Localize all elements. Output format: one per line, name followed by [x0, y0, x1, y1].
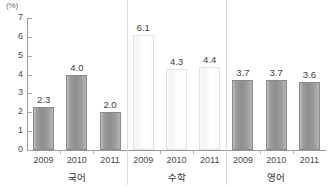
x-axis-line	[27, 150, 326, 151]
y-axis-tick-mark	[28, 150, 32, 151]
x-axis-category-label: 2009	[133, 155, 153, 165]
x-axis-category-label: 2009	[233, 155, 253, 165]
bar-value-label: 2.3	[37, 94, 50, 105]
bar: 3.7	[232, 80, 253, 150]
x-axis-category-label: 2009	[34, 155, 54, 165]
bar: 2.0	[100, 112, 121, 150]
y-axis-tick-label: 7	[18, 12, 23, 23]
y-axis-tick: 3	[27, 93, 32, 94]
y-axis-tick-label: 0	[18, 144, 23, 155]
group-label: 영어	[267, 170, 285, 184]
bar: 3.6	[299, 82, 320, 150]
bar-value-label: 3.7	[236, 67, 249, 78]
y-axis-tick: 2	[27, 112, 32, 113]
x-axis-tick-mark	[293, 150, 294, 154]
bar: 4.3	[166, 69, 187, 150]
bar: 3.7	[266, 80, 287, 150]
x-axis-tick-mark	[193, 150, 194, 154]
y-axis-tick: 1	[27, 131, 32, 132]
y-axis-tick-mark	[28, 56, 32, 57]
y-axis-tick-label: 6	[18, 31, 23, 42]
y-axis-tick: 6	[27, 37, 32, 38]
x-axis-tick-mark	[160, 150, 161, 154]
bar-value-label: 2.0	[103, 99, 116, 110]
y-axis-unit-label: (%)	[6, 1, 18, 10]
y-axis-tick-label: 1	[18, 125, 23, 136]
bar: 4.0	[66, 75, 87, 150]
y-axis-tick-mark	[28, 112, 32, 113]
group-separator	[127, 0, 128, 185]
group-label: 수학	[168, 170, 186, 184]
y-axis-tick-mark	[28, 93, 32, 94]
y-axis-tick-mark	[28, 18, 32, 19]
x-axis-tick-mark	[60, 150, 61, 154]
x-axis-category-label: 2010	[266, 155, 286, 165]
bar-value-label: 3.7	[270, 67, 283, 78]
y-axis-tick-label: 5	[18, 50, 23, 61]
x-axis-tick-mark	[93, 150, 94, 154]
plot-area: 01234567 2.34.02.06.14.34.43.73.73.6 200…	[27, 18, 326, 150]
bar-value-label: 4.3	[170, 56, 183, 67]
y-axis-tick-label: 2	[18, 106, 23, 117]
bar-chart: (%) 01234567 2.34.02.06.14.34.43.73.73.6…	[0, 0, 331, 187]
bar-value-label: 4.0	[70, 62, 83, 73]
bar: 6.1	[133, 35, 154, 150]
bar: 2.3	[33, 107, 54, 150]
x-axis-category-label: 2010	[166, 155, 186, 165]
y-axis-tick-mark	[28, 131, 32, 132]
y-axis-tick: 7	[27, 18, 32, 19]
group-separator	[226, 0, 227, 185]
y-axis-tick-mark	[28, 75, 32, 76]
x-axis-category-label: 2011	[100, 155, 119, 165]
x-axis-category-label: 2010	[67, 155, 87, 165]
x-axis-category-label: 2011	[300, 155, 319, 165]
y-axis-tick-mark	[28, 37, 32, 38]
y-axis-tick: 4	[27, 75, 32, 76]
y-axis-tick-label: 4	[18, 69, 23, 80]
x-axis-tick-mark	[260, 150, 261, 154]
bar-value-label: 4.4	[203, 54, 216, 65]
group-label: 국어	[68, 170, 86, 184]
y-axis-tick: 0	[27, 150, 32, 151]
x-axis-category-label: 2011	[200, 155, 219, 165]
y-axis-tick-label: 3	[18, 87, 23, 98]
bar-value-label: 3.6	[303, 69, 316, 80]
bar-value-label: 6.1	[137, 22, 150, 33]
bar: 4.4	[199, 67, 220, 150]
y-axis-tick: 5	[27, 56, 32, 57]
